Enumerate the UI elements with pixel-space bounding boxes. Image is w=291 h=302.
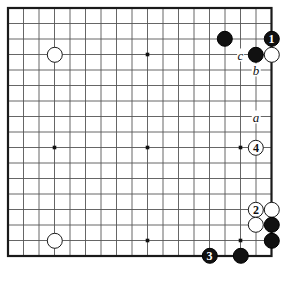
star-point — [53, 146, 57, 150]
label-b: b — [252, 64, 261, 77]
move-number: 1 — [268, 33, 274, 45]
move-number: 3 — [206, 250, 212, 262]
star-point — [146, 146, 150, 150]
move-number: 2 — [253, 203, 259, 215]
star-point — [239, 146, 243, 150]
star-point — [146, 53, 150, 57]
move-number: 4 — [253, 141, 259, 153]
label-c: c — [237, 48, 245, 61]
star-point — [239, 239, 243, 243]
star-point — [146, 239, 150, 243]
go-diagram: 1423 abc — [0, 0, 291, 302]
label-a: a — [252, 110, 261, 123]
